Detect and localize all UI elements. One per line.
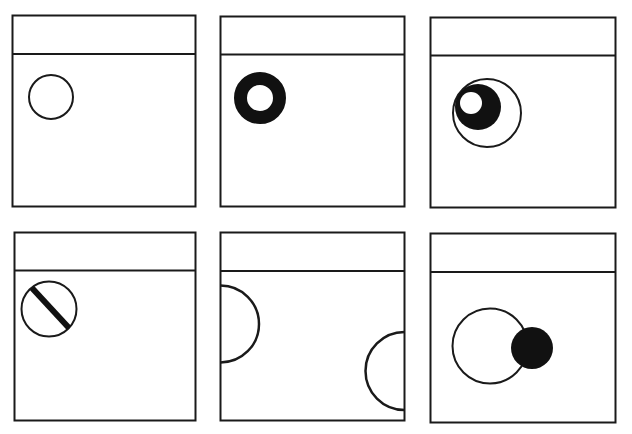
slash-bar	[32, 288, 69, 328]
panel-frame	[15, 233, 196, 421]
filled-dot-icon	[511, 327, 553, 369]
panel-frame	[221, 233, 405, 421]
open-circle-icon	[29, 75, 73, 119]
panel-2	[221, 17, 405, 207]
panel-5	[221, 233, 405, 421]
panel-frame	[13, 16, 196, 207]
filled-ring-icon	[241, 79, 280, 118]
panel-diagram	[0, 0, 632, 434]
panel-4	[15, 233, 196, 421]
panel-1	[13, 16, 196, 207]
panel-6	[431, 234, 616, 423]
panel-3	[431, 18, 616, 208]
left-half-circle-icon	[221, 286, 260, 363]
right-half-circle-icon	[366, 332, 405, 410]
highlight-circle-icon	[460, 92, 482, 114]
